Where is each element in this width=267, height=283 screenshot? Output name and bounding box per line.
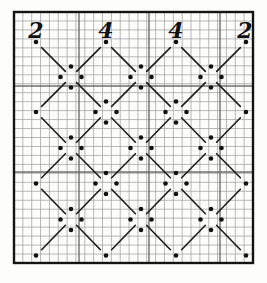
pin-dot bbox=[114, 110, 119, 115]
pin-dot bbox=[128, 217, 133, 222]
pin-dot bbox=[34, 253, 39, 258]
pin-dot bbox=[79, 217, 84, 222]
pin-dot bbox=[104, 192, 109, 197]
pin-dot bbox=[69, 64, 74, 69]
pin-dot bbox=[244, 253, 249, 258]
pin-dot bbox=[209, 135, 214, 140]
pin-dot bbox=[104, 120, 109, 125]
pin-dot bbox=[149, 217, 154, 222]
pin-dot bbox=[163, 110, 168, 115]
pin-dot bbox=[34, 181, 39, 186]
pin-dot bbox=[69, 85, 74, 90]
pin-dot bbox=[244, 110, 249, 115]
pin-dot bbox=[198, 75, 203, 80]
pin-dot bbox=[209, 85, 214, 90]
pin-dot bbox=[69, 207, 74, 212]
pin-dot bbox=[58, 75, 63, 80]
pin-dot bbox=[198, 146, 203, 151]
pin-dot bbox=[139, 64, 144, 69]
pin-dot bbox=[209, 228, 214, 233]
pin-dot bbox=[128, 75, 133, 80]
pin-dot bbox=[184, 110, 189, 115]
pin-dot bbox=[209, 156, 214, 161]
pin-dot bbox=[219, 75, 224, 80]
pin-dot bbox=[244, 181, 249, 186]
pin-dot bbox=[139, 207, 144, 212]
count-label: 2 bbox=[27, 17, 43, 43]
pin-dot bbox=[58, 146, 63, 151]
count-label: 4 bbox=[168, 17, 183, 43]
pin-dot bbox=[128, 146, 133, 151]
pin-dot bbox=[139, 156, 144, 161]
stitch-pattern-chart: 2442 bbox=[0, 0, 267, 283]
pin-dot bbox=[139, 228, 144, 233]
pin-dot bbox=[149, 146, 154, 151]
pin-dot bbox=[104, 99, 109, 104]
pin-dot bbox=[79, 75, 84, 80]
pin-dot bbox=[58, 217, 63, 222]
pin-dot bbox=[79, 146, 84, 151]
pin-dot bbox=[163, 181, 168, 186]
pin-dot bbox=[209, 64, 214, 69]
pin-dot bbox=[174, 171, 179, 176]
pin-dot bbox=[139, 135, 144, 140]
pin-dot bbox=[174, 99, 179, 104]
pin-dot bbox=[149, 75, 154, 80]
pin-dot bbox=[93, 110, 98, 115]
pin-dot bbox=[174, 253, 179, 258]
count-label: 4 bbox=[98, 17, 113, 43]
pin-dot bbox=[174, 120, 179, 125]
pin-dot bbox=[209, 207, 214, 212]
pin-dot bbox=[69, 228, 74, 233]
scanned-pattern-page: 2442 bbox=[0, 0, 267, 283]
pin-dot bbox=[104, 253, 109, 258]
count-label: 2 bbox=[236, 17, 252, 43]
pin-dot bbox=[139, 85, 144, 90]
pin-dot bbox=[69, 156, 74, 161]
pin-dot bbox=[184, 181, 189, 186]
pin-dot bbox=[198, 217, 203, 222]
pin-dot bbox=[93, 181, 98, 186]
pin-dot bbox=[219, 217, 224, 222]
pin-dot bbox=[104, 171, 109, 176]
pin-dot bbox=[34, 110, 39, 115]
pattern-chart-svg: 2442 bbox=[0, 0, 267, 283]
pin-dot bbox=[114, 181, 119, 186]
pin-dot bbox=[174, 192, 179, 197]
pin-dot bbox=[69, 135, 74, 140]
pin-dot bbox=[219, 146, 224, 151]
